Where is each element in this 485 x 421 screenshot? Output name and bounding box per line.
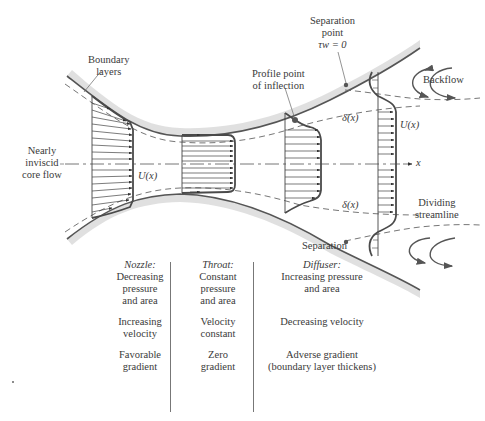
column-divider-2 xyxy=(253,262,254,412)
diffuser-column: Diffuser: Increasing pressure and area D… xyxy=(262,259,382,382)
dividing-streamline-label: Dividing streamline xyxy=(415,197,459,221)
backflow-arrows-bottom xyxy=(409,238,455,266)
throat-title: Throat: xyxy=(187,259,249,271)
throat-velocity: Velocity constant xyxy=(187,316,249,340)
nozzle-title: Nozzle: xyxy=(105,259,175,271)
diffuser-velocity: Decreasing velocity xyxy=(262,316,382,340)
nozzle-gradient: Favorable gradient xyxy=(105,349,175,373)
throat-column: Throat: Constant pressure and area Veloc… xyxy=(187,259,249,382)
inflection-velocity-profile xyxy=(285,113,321,213)
throat-gradient: Zero gradient xyxy=(187,349,249,373)
backflow-label: Backflow xyxy=(423,74,464,86)
separation-label: Separation xyxy=(302,240,347,252)
nozzle-velocity: Increasing velocity xyxy=(105,316,175,340)
profile-inflection-label: Profile point of inflection xyxy=(252,68,305,92)
nozzle-pressure: Decreasing pressure and area xyxy=(105,271,175,307)
diffuser-gradient: Adverse gradient (boundary layer thicken… xyxy=(262,349,382,373)
inflection-point xyxy=(292,117,298,123)
inviscid-core-label: Nearly inviscid core flow xyxy=(22,145,62,181)
x-axis-label: x xyxy=(416,157,421,169)
diffuser-title: Diffuser: xyxy=(262,259,382,271)
u-right-label: U(x) xyxy=(400,119,419,131)
u-left-label: U(x) xyxy=(138,170,157,182)
delta-top-label: δ(x) xyxy=(342,112,359,124)
boundary-layers-label: Boundarylayers xyxy=(88,54,129,78)
diffuser-pressure: Increasing pressure and area xyxy=(262,271,382,307)
stray-dot xyxy=(12,381,14,383)
column-divider-1 xyxy=(170,262,171,412)
separation-point-label: Separation point τw = 0 xyxy=(310,15,355,51)
delta-bottom-label: δ(x) xyxy=(342,199,359,211)
throat-pressure: Constant pressure and area xyxy=(187,271,249,307)
nozzle-column: Nozzle: Decreasing pressure and area Inc… xyxy=(105,259,175,382)
top-separation-streamline xyxy=(345,90,480,100)
separation-point-top xyxy=(344,83,348,87)
bottom-dividing-streamline xyxy=(345,225,480,241)
